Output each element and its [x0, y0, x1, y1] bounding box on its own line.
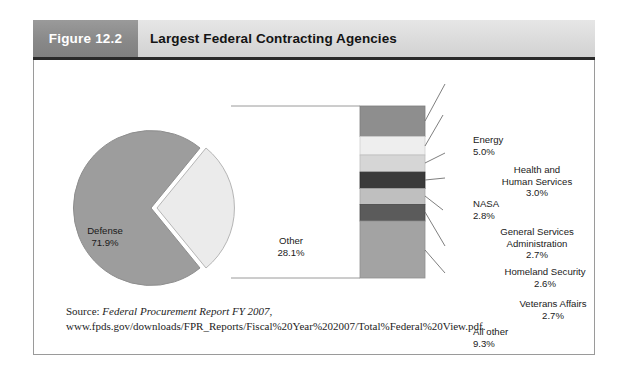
- callout-nasa-line1: NASA: [473, 198, 623, 210]
- pie-chart: [73, 131, 234, 286]
- leader-line-veterans-affairs: [425, 212, 445, 246]
- callout-label-general-services-administration: General Services Administration 2.7%: [451, 226, 623, 261]
- leader-line-homeland-security: [425, 196, 443, 210]
- pie-label-other: Other 28.1%: [261, 235, 321, 258]
- chart-area: Defense 71.9% Other 28.1% Energy 5.0% He…: [33, 60, 595, 295]
- callout-label-nasa: NASA 2.8%: [473, 198, 623, 221]
- leader-line-energy: [425, 84, 445, 121]
- callout-label-health-human-services: Health and Human Services 3.0%: [451, 164, 623, 199]
- bar-segment-homeland-security: [360, 189, 425, 205]
- callout-homeland-line1: Homeland Security: [465, 266, 625, 278]
- callout-hhs-line2: Human Services: [451, 176, 623, 188]
- callout-energy-line2: 5.0%: [473, 146, 623, 158]
- bar-segment-general-services-administration: [360, 172, 425, 189]
- pie-label-defense-name: Defense: [69, 225, 141, 237]
- segment-label-leader-lines: [425, 84, 445, 273]
- leader-line-nasa: [425, 153, 445, 163]
- pie-label-other-value: 28.1%: [261, 247, 321, 259]
- pie-label-defense-value: 71.9%: [69, 237, 141, 249]
- source-note: Source: Federal Procurement Report FY 20…: [66, 304, 566, 334]
- callout-gsa-line2: Administration: [451, 238, 623, 250]
- callout-nasa-line2: 2.8%: [473, 210, 623, 222]
- bar-segment-health-human-services: [360, 137, 425, 155]
- pie-label-other-name: Other: [261, 235, 321, 247]
- callout-label-homeland-security: Homeland Security 2.6%: [465, 266, 625, 289]
- figure-number-label: Figure 12.2: [49, 31, 122, 46]
- callout-allother-line2: 9.3%: [473, 338, 623, 350]
- figure-title-bar: Largest Federal Contracting Agencies: [138, 20, 595, 57]
- leader-line-gsa: [425, 178, 445, 180]
- callout-energy-line1: Energy: [473, 134, 623, 146]
- source-prefix: Source:: [66, 305, 102, 317]
- figure-title: Largest Federal Contracting Agencies: [138, 31, 397, 46]
- pie-label-defense: Defense 71.9%: [69, 225, 141, 248]
- callout-label-energy: Energy 5.0%: [473, 134, 623, 157]
- bar-segment-energy: [360, 106, 425, 137]
- leader-line-all-other: [425, 250, 445, 273]
- figure-container: Figure 12.2 Largest Federal Contracting …: [0, 0, 627, 378]
- bar-segment-nasa: [360, 155, 425, 172]
- figure-number-tag: Figure 12.2: [33, 20, 138, 57]
- source-title: Federal Procurement Report FY 2007: [102, 305, 269, 317]
- callout-gsa-line3: 2.7%: [451, 249, 623, 261]
- callout-gsa-line1: General Services: [451, 226, 623, 238]
- callout-hhs-line1: Health and: [451, 164, 623, 176]
- callout-homeland-line2: 2.6%: [465, 278, 625, 290]
- bar-segment-all-other: [360, 221, 425, 278]
- leader-line-health-human-services: [425, 115, 443, 146]
- bar-segment-veterans-affairs: [360, 205, 425, 222]
- breakout-stacked-bar: [360, 106, 425, 278]
